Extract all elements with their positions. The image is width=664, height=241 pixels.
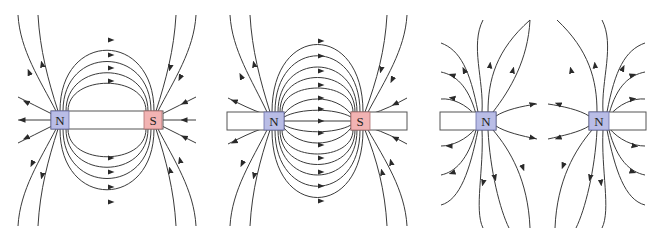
panel-opposite-poles: N S bbox=[227, 15, 407, 226]
north-pole-label: N bbox=[481, 114, 491, 129]
south-pole-label: S bbox=[149, 113, 156, 128]
panel-like-poles: N N bbox=[440, 20, 646, 228]
north-pole-label: N bbox=[55, 113, 65, 128]
north-pole-label: N bbox=[269, 114, 279, 129]
panel-single-magnet: N S bbox=[18, 15, 196, 226]
magnetic-field-diagram: N S bbox=[0, 0, 664, 241]
south-pole-label: S bbox=[356, 114, 363, 129]
north-pole-label: N bbox=[594, 114, 604, 129]
field-line bbox=[60, 50, 154, 111]
